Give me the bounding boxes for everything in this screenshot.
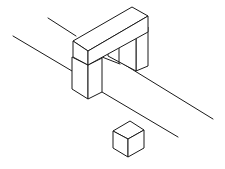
upper-back-line	[48, 18, 76, 36]
cube	[113, 121, 144, 157]
arch-drawing	[0, 0, 225, 169]
lower-back-line	[13, 36, 72, 71]
